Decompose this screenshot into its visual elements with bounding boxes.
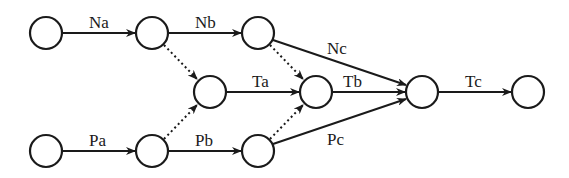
node-t1 <box>194 76 226 108</box>
node-t4 <box>512 76 544 108</box>
label-pa: Pa <box>89 131 106 150</box>
dotted-edge-n2-t2 <box>270 45 303 79</box>
label-pc: Pc <box>327 130 344 149</box>
label-tc: Tc <box>465 72 482 91</box>
label-nc: Nc <box>327 39 347 58</box>
node-n2 <box>242 17 274 49</box>
label-na: Na <box>89 13 109 32</box>
dotted-edge-n1-t1 <box>164 45 197 79</box>
node-n0 <box>30 17 62 49</box>
node-t3 <box>406 76 438 108</box>
network-diagram: Na Nb Nc Ta Tb Tc Pa Pb Pc <box>0 0 569 178</box>
dotted-edge-p2-t2 <box>270 105 303 139</box>
node-p2 <box>242 135 274 167</box>
node-p1 <box>136 135 168 167</box>
label-ta: Ta <box>252 72 269 91</box>
node-p0 <box>30 135 62 167</box>
node-n1 <box>136 17 168 49</box>
label-tb: Tb <box>343 72 362 91</box>
label-nb: Nb <box>195 13 216 32</box>
label-pb: Pb <box>195 131 213 150</box>
node-t2 <box>300 76 332 108</box>
dotted-edge-p1-t1 <box>164 105 197 139</box>
